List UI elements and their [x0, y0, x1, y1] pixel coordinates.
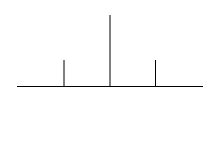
normal-curve-diagram — [0, 0, 208, 159]
